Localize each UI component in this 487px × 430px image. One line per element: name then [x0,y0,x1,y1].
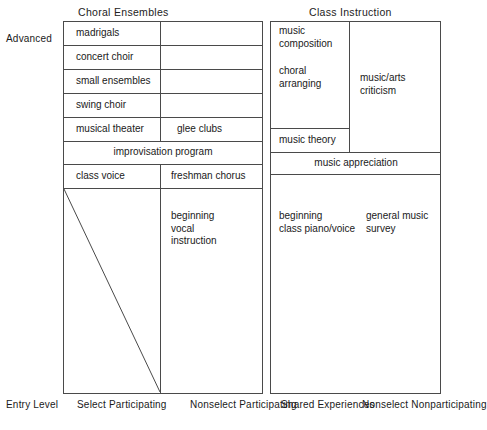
cell-music-composition: music composition [271,21,349,65]
column-label-select-participating: Select Participating [77,398,167,411]
cell-concert-choir: concert choir [64,45,160,69]
cell-beginning-vocal-instruction: beginning vocal instruction [161,188,262,393]
left-table-border-right [262,21,263,394]
left-table-border-bottom [63,393,263,394]
cell-glee-clubs: glee clubs [161,117,262,141]
axis-label-advanced: Advanced [6,32,52,45]
cell-select-participating-empty [64,188,160,393]
cell-class-voice: class voice [64,164,160,188]
cell-madrigals: madrigals [64,21,160,45]
cell-musical-theater: musical theater [64,117,160,141]
cell-small-ensembles: small ensembles [64,69,160,93]
cell-general-music-survey: general music survey [360,174,441,393]
cell-improvisation-program: improvisation program [64,141,262,164]
cell-music-theory: music theory [271,128,349,152]
cell-music-appreciation: music appreciation [271,152,441,174]
right-table-border-bottom [270,393,441,394]
cell-music-arts-criticism: music/arts criticism [350,21,440,152]
cell-beginning-class-piano-voice: beginning class piano/voice [271,174,360,393]
cell-choral-arranging: choral arranging [271,65,349,109]
axis-label-entry-level: Entry Level [6,398,58,411]
header-choral-ensembles: Choral Ensembles [78,6,169,18]
cell-freshman-chorus: freshman chorus [161,164,262,188]
header-class-instruction: Class Instruction [309,6,392,18]
column-label-shared-experiences: Shared Experiences [281,398,375,411]
column-label-nonselect-nonparticipating: Nonselect Nonparticipating [362,398,487,411]
cell-swing-choir: swing choir [64,93,160,117]
